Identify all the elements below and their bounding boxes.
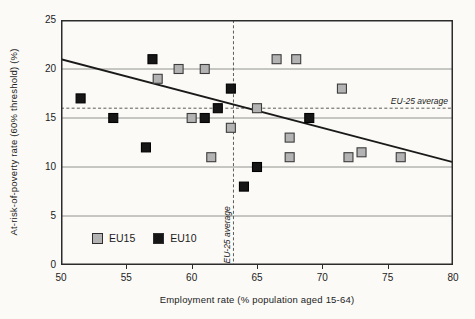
point-eu15: [226, 123, 235, 132]
point-eu10: [148, 55, 157, 64]
legend-swatch-eu15: [92, 233, 103, 244]
point-eu15: [153, 74, 162, 83]
eu25-average-vertical-label: EU-25 average: [222, 202, 233, 264]
point-eu10: [76, 94, 85, 103]
point-eu10: [141, 143, 150, 152]
x-tick-label: 65: [251, 272, 262, 283]
point-eu15: [187, 114, 196, 123]
y-tick-label: 10: [36, 161, 56, 172]
point-eu15: [200, 65, 209, 74]
legend-item-eu15: EU15: [92, 232, 135, 244]
point-eu15: [396, 153, 405, 162]
point-eu15: [285, 133, 294, 142]
x-tick-label: 50: [55, 272, 66, 283]
point-eu15: [253, 104, 262, 113]
plot-frame: [62, 21, 453, 265]
point-eu15: [344, 153, 353, 162]
x-tickmark: [388, 265, 389, 269]
x-tick-label: 55: [121, 272, 132, 283]
scatter-chart-figure: At-risk-of-poverty rate (60% threshold) …: [0, 0, 475, 319]
x-tick-label: 60: [186, 272, 197, 283]
y-tick-label: 15: [36, 112, 56, 123]
point-eu15: [285, 153, 294, 162]
legend-label-eu10: EU10: [170, 232, 196, 244]
x-tickmark: [126, 265, 127, 269]
point-eu15: [337, 84, 346, 93]
plot-area: [61, 20, 453, 265]
x-tickmark: [257, 265, 258, 269]
eu25-average-horizontal-label: EU-25 average: [391, 96, 448, 106]
x-tickmark: [322, 265, 323, 269]
point-eu15: [174, 65, 183, 74]
legend-label-eu15: EU15: [109, 232, 135, 244]
y-tick-label: 20: [36, 63, 56, 74]
point-eu15: [292, 55, 301, 64]
legend: EU15EU10: [92, 232, 197, 244]
x-tickmark: [192, 265, 193, 269]
point-eu10: [200, 114, 209, 123]
legend-swatch-eu10: [153, 233, 164, 244]
point-eu10: [109, 114, 118, 123]
x-tick-label: 75: [382, 272, 393, 283]
point-eu10: [213, 104, 222, 113]
point-eu10: [239, 182, 248, 191]
point-eu15: [357, 148, 366, 157]
point-eu15: [272, 55, 281, 64]
x-tick-label: 80: [447, 272, 458, 283]
y-tick-label: 0: [36, 259, 56, 270]
y-tick-label: 5: [36, 210, 56, 221]
x-tick-label: 70: [317, 272, 328, 283]
point-eu10: [226, 84, 235, 93]
y-axis-title: At-risk-of-poverty rate (60% threshold) …: [8, 48, 19, 235]
y-tick-label: 25: [36, 14, 56, 25]
x-axis-title: Employment rate (% population aged 15-64…: [160, 294, 355, 305]
point-eu10: [253, 163, 262, 172]
point-eu10: [305, 114, 314, 123]
point-eu15: [207, 153, 216, 162]
legend-item-eu10: EU10: [153, 232, 196, 244]
